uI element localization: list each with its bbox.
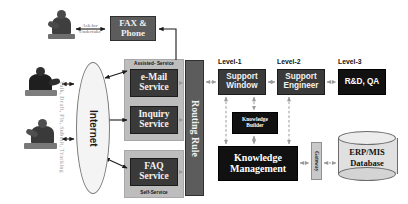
avatar-head	[57, 10, 66, 19]
avatar-desk	[24, 143, 57, 149]
node-routing-rule[interactable]: Routing Rule	[185, 60, 204, 196]
node-fax-phone[interactable]: FAX & Phone	[110, 16, 156, 41]
side-caption-text: Talk, Draft, Fix, Submit, Tracking	[59, 81, 65, 173]
node-knowledge-management[interactable]: Knowledge Management	[218, 146, 298, 181]
avatar-desk	[48, 34, 75, 39]
gateway-label: Gateway	[314, 151, 320, 171]
node-support-engineer[interactable]: Support Engineer	[277, 69, 325, 95]
side-caption: Talk, Draft, Fix, Submit, Tracking	[57, 52, 67, 202]
node-inquiry-service[interactable]: Inquiry Service	[130, 106, 178, 134]
support-engineer-line-2: Engineer	[283, 82, 318, 91]
email-line-2: Service	[139, 83, 169, 93]
avatar-desk	[25, 90, 57, 96]
knowledge-management-line-1: Knowledge	[230, 153, 286, 164]
internet-label: Internet	[88, 110, 99, 147]
label-level-2: Level-2	[277, 58, 325, 65]
ask-for-caption: Ask for Undertake	[72, 21, 108, 37]
node-erp-mis-database[interactable]: ERP/MIS Database	[338, 131, 396, 181]
node-email-service[interactable]: e-Mail Service	[130, 69, 178, 97]
knowledge-builder-line-2: Builder	[242, 123, 268, 129]
label-level-3: Level-3	[338, 58, 386, 65]
faq-line-2: Service	[139, 172, 169, 182]
avatar-head	[36, 67, 45, 76]
node-gateway[interactable]: Gateway	[311, 142, 322, 180]
inquiry-line-2: Service	[138, 120, 169, 130]
node-rd-qa[interactable]: R&D, QA	[338, 69, 386, 95]
cylinder-top	[338, 131, 396, 145]
fax-line-2: Phone	[119, 29, 147, 38]
database-line-2: Database	[350, 158, 384, 169]
customer-laptop-avatar	[22, 118, 62, 154]
node-knowledge-builder[interactable]: Knowledge Builder	[232, 112, 278, 134]
label-self-service: Self-Service	[126, 189, 182, 197]
knowledge-management-line-2: Management	[230, 164, 286, 175]
support-window-line-2: Window	[226, 82, 257, 91]
rd-qa-label: R&D, QA	[345, 78, 380, 87]
label-assisted-service: Assisted- Service	[126, 60, 182, 68]
label-level-1: Level-1	[218, 58, 266, 65]
routing-rule-label: Routing Rule	[189, 100, 200, 157]
node-faq-service[interactable]: FAQ Service	[130, 158, 178, 186]
ask-caption-line-2: Undertake	[79, 29, 101, 35]
internet-cloud: Internet	[76, 62, 110, 194]
avatar-head	[38, 119, 47, 128]
diagram-canvas: Ask for Undertake Talk, Draft, Fix, Subm…	[0, 0, 408, 204]
database-line-1: ERP/MIS	[349, 147, 384, 158]
customer-desktop-avatar	[22, 66, 62, 100]
node-support-window[interactable]: Support Window	[218, 69, 266, 95]
